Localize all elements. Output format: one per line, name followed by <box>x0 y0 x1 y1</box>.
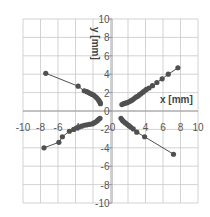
data-point <box>98 101 103 106</box>
x-tick-label: -8 <box>36 122 45 133</box>
x-tick-label: -6 <box>54 122 63 133</box>
y-tick-label: 10 <box>98 14 110 25</box>
x-tick-label: -10 <box>16 122 31 133</box>
y-tick-label: -6 <box>101 161 110 172</box>
y-axis-title: y [mm] <box>90 27 101 60</box>
x-tick-label: 6 <box>160 122 166 133</box>
data-point <box>97 116 102 121</box>
x-tick-label: 0 <box>110 122 116 133</box>
x-tick-label: 10 <box>192 122 204 133</box>
y-tick-label: 8 <box>104 32 110 43</box>
y-tick-label: 0 <box>104 106 110 117</box>
y-tick-label: -2 <box>101 124 110 135</box>
data-point <box>175 65 180 70</box>
data-point <box>76 84 81 89</box>
y-tick-label: -4 <box>101 143 110 154</box>
y-tick-label: 2 <box>104 88 110 99</box>
data-point <box>160 76 165 81</box>
data-point <box>134 130 139 135</box>
y-tick-label: -10 <box>95 198 110 209</box>
data-point <box>56 140 61 145</box>
data-point <box>154 80 159 85</box>
series-lower-left <box>41 116 102 151</box>
y-tick-label: 6 <box>104 51 110 62</box>
scatter-chart: -10-8-6-4-20246810-10-8-6-4046810 x [mm]… <box>0 0 210 217</box>
data-point <box>43 71 48 76</box>
data-point <box>142 134 147 139</box>
data-point <box>171 152 176 157</box>
y-tick-label: -8 <box>101 180 110 191</box>
data-point <box>41 145 46 150</box>
x-axis-title: x [mm] <box>160 94 193 105</box>
y-tick-label: 4 <box>104 69 110 80</box>
series-upper-left <box>43 71 103 107</box>
data-point <box>150 83 155 88</box>
data-point <box>166 72 171 77</box>
data-point <box>60 134 65 139</box>
x-tick-label: 8 <box>178 122 184 133</box>
series-line <box>46 73 101 103</box>
x-tick-label: 4 <box>143 122 149 133</box>
